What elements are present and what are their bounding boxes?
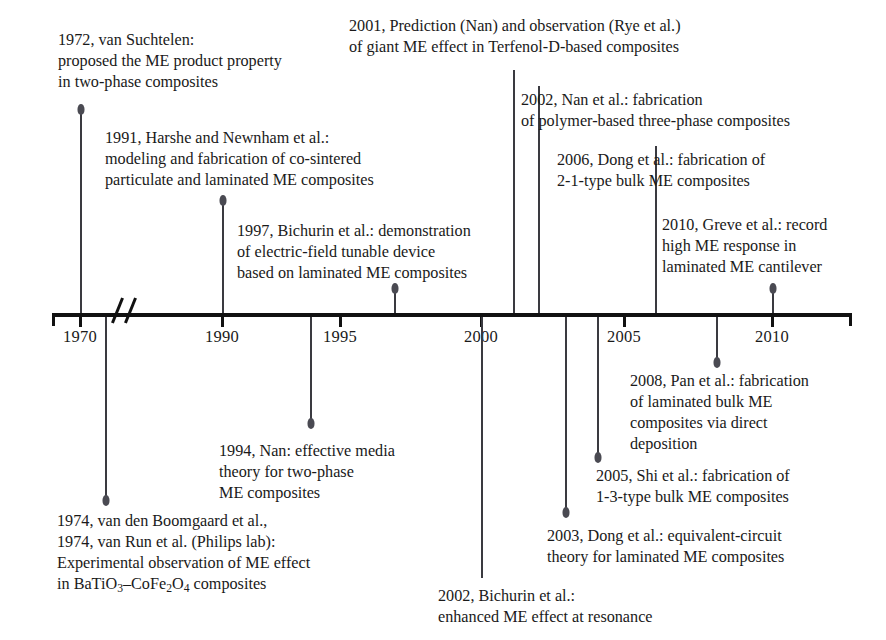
pin-head-1991-harshe-newnham — [220, 195, 227, 206]
connector-1974-boomgaard-vanrun — [105, 317, 107, 499]
event-note-2006-dong: 2006, Dong et al.: fabrication of 2-1-ty… — [557, 150, 765, 192]
axis-tick-label-1970: 1970 — [63, 327, 97, 347]
connector-1972-van-suchtelen — [80, 110, 82, 313]
axis-tick-2010 — [771, 316, 774, 327]
connector-2008-pan — [716, 317, 718, 361]
axis-tick-label-1995: 1995 — [323, 327, 357, 347]
event-note-1997-bichurin: 1997, Bichurin et al.: demonstration of … — [237, 221, 471, 284]
axis-tick-1995 — [339, 316, 342, 327]
connector-2005-shi — [597, 317, 599, 456]
pin-head-2003-dong — [563, 507, 570, 518]
pin-head-1974-boomgaard-vanrun — [103, 495, 110, 506]
axis-tick-label-2010: 2010 — [755, 327, 789, 347]
connector-2003-dong — [565, 317, 567, 511]
axis-tick-1970 — [79, 316, 82, 327]
event-note-2003-dong: 2003, Dong et al.: equivalent-circuit th… — [547, 526, 784, 568]
axis-tick-1990 — [221, 316, 224, 327]
event-note-2002-bichurin: 2002, Bichurin et al.: enhanced ME effec… — [438, 586, 653, 628]
connector-1991-harshe-newnham — [222, 201, 224, 313]
connector-2002-bichurin — [481, 317, 483, 578]
pin-head-1994-nan — [308, 418, 315, 429]
axis-break-icon — [112, 297, 146, 323]
pin-head-2008-pan — [714, 357, 721, 368]
event-note-1972-van-suchtelen: 1972, van Suchtelen: proposed the ME pro… — [58, 30, 282, 93]
event-note-1994-nan: 1994, Nan: effective media theory for tw… — [219, 441, 395, 504]
event-note-2010-greve: 2010, Greve et al.: record high ME respo… — [662, 215, 827, 278]
chemical-formula: in BaTiO3–CoFe2O4 composites — [57, 575, 266, 593]
axis-tick-2005 — [623, 316, 626, 327]
event-note-2001-prediction-nan-rye: 2001, Prediction (Nan) and observation (… — [349, 16, 681, 58]
axis-tick-label-1990: 1990 — [205, 327, 239, 347]
axis-left-cap — [52, 313, 55, 326]
timeline-figure: 197019901995200020052010 1972, van Sucht… — [0, 0, 886, 640]
axis-tick-label-2005: 2005 — [607, 327, 641, 347]
event-note-2008-pan: 2008, Pan et al.: fabrication of laminat… — [630, 371, 809, 455]
timeline-axis — [52, 313, 852, 317]
event-note-1974-boomgaard-vanrun: 1974, van den Boomgaard et al., 1974, va… — [57, 511, 310, 597]
event-note-2005-shi: 2005, Shi et al.: fabrication of 1-3-typ… — [596, 466, 790, 508]
axis-right-cap — [849, 313, 852, 326]
event-note-2002-nan: 2002, Nan et al.: fabrication of polymer… — [521, 90, 790, 132]
pin-head-2010-greve — [770, 283, 777, 294]
pin-head-1972-van-suchtelen — [78, 104, 85, 115]
connector-1994-nan — [310, 317, 312, 422]
event-note-1991-harshe-newnham: 1991, Harshe and Newnham et al.: modelin… — [105, 128, 374, 191]
connector-2001-prediction-nan-rye — [513, 70, 515, 313]
pin-head-1997-bichurin — [392, 283, 399, 294]
pin-head-2005-shi — [595, 452, 602, 463]
